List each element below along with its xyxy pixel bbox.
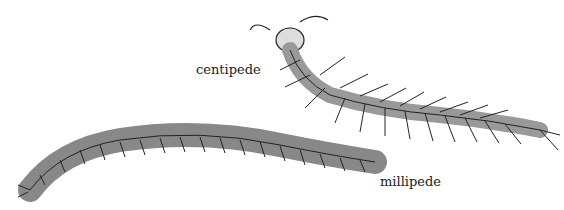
illustration: centipede millipede xyxy=(0,0,564,210)
centipede-drawing xyxy=(250,16,560,150)
millipede-label: millipede xyxy=(380,174,441,189)
centipede-label: centipede xyxy=(196,62,261,77)
centipede-millipede-drawing xyxy=(0,0,564,210)
millipede-drawing xyxy=(18,135,375,197)
